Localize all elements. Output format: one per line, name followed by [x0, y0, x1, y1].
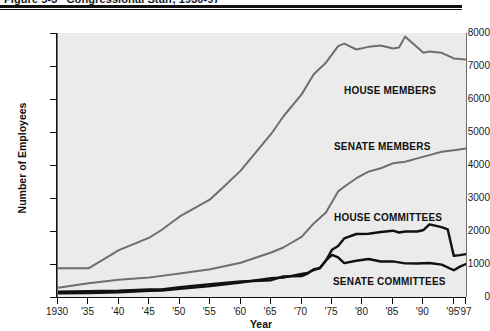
x-axis-tick — [331, 298, 332, 304]
x-axis-tick — [240, 298, 241, 304]
y-axis-tick-label: 2000 — [446, 226, 490, 236]
x-axis-tick — [392, 298, 393, 304]
x-axis-tick-label: '45 — [133, 306, 163, 317]
x-axis-tick-label: '75 — [316, 306, 346, 317]
y-axis-tick-label: 4000 — [446, 160, 490, 170]
x-axis-tick-label: '55 — [194, 306, 224, 317]
x-axis-tick — [87, 298, 88, 304]
y-axis-tick-label: 6000 — [446, 94, 490, 104]
x-axis-tick — [118, 298, 119, 304]
x-axis-tick-label: '35 — [72, 306, 102, 317]
x-axis-tick-label: 1930 — [42, 306, 72, 317]
x-axis-tick — [453, 298, 454, 304]
x-axis-tick — [465, 298, 466, 304]
x-axis-tick — [301, 298, 302, 304]
series-line-house-members — [58, 37, 466, 269]
x-axis-tick-label: '70 — [286, 306, 316, 317]
x-axis-tick — [179, 298, 180, 304]
series-label-senate-committees: SENATE COMMITTEES — [333, 276, 446, 287]
y-axis-tick-label: 3000 — [446, 193, 490, 203]
y-axis-tick-label: 1000 — [446, 259, 490, 269]
x-axis-tick-label: '40 — [103, 306, 133, 317]
y-axis-tick-label: 7000 — [446, 61, 490, 71]
x-axis-tick — [270, 298, 271, 304]
x-axis-title: Year — [57, 318, 465, 330]
y-axis-tick — [50, 198, 56, 199]
x-axis-tick-label: '60 — [225, 306, 255, 317]
x-axis-tick-label: '80 — [346, 306, 376, 317]
y-axis-tick — [50, 231, 56, 232]
y-axis-title: Number of Employees — [16, 83, 28, 233]
y-axis-tick — [50, 99, 56, 100]
x-axis-tick — [361, 298, 362, 304]
y-axis-tick — [50, 297, 56, 298]
x-axis-tick-label: '65 — [255, 306, 285, 317]
x-axis-tick — [148, 298, 149, 304]
x-axis-tick — [209, 298, 210, 304]
y-axis-tick-label: 8000 — [446, 28, 490, 38]
y-axis-tick-label: 5000 — [446, 127, 490, 137]
y-axis-line — [56, 33, 57, 298]
y-axis-tick — [50, 66, 56, 67]
series-label-senate-members: SENATE MEMBERS — [334, 141, 431, 152]
series-label-house-committees: HOUSE COMMITTEES — [334, 212, 442, 223]
x-axis-tick — [57, 298, 58, 304]
x-axis-tick — [422, 298, 423, 304]
line-chart: 010002000300040005000600070008000 1930'3… — [0, 0, 490, 331]
y-axis-tick — [50, 132, 56, 133]
x-axis-tick-label: '97 — [450, 306, 480, 317]
y-axis-tick — [50, 33, 56, 34]
y-axis-tick — [50, 165, 56, 166]
x-axis-tick-label: '90 — [407, 306, 437, 317]
series-label-house-members: HOUSE MEMBERS — [344, 85, 436, 96]
x-axis-tick-label: '85 — [377, 306, 407, 317]
plot-series-svg — [58, 33, 466, 297]
plot-area — [57, 33, 467, 297]
y-axis-tick — [50, 264, 56, 265]
x-axis-tick-label: '50 — [164, 306, 194, 317]
